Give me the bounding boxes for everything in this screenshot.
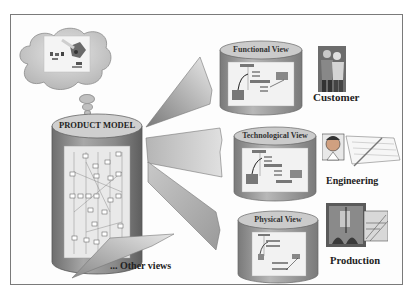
technological-view-cylinder: Technological View <box>232 126 318 204</box>
customer-label: Customer <box>313 91 359 103</box>
physical-view-title: Physical View <box>236 215 320 224</box>
other-views-beam <box>70 232 180 280</box>
thought-cloud <box>14 24 114 94</box>
production-image <box>326 203 388 247</box>
technological-view-title: Technological View <box>232 131 318 140</box>
functional-view-cylinder: Functional View <box>218 40 304 118</box>
other-views-label: ... Other views <box>110 260 171 271</box>
production-label: Production <box>330 255 380 266</box>
engineering-label: Engineering <box>326 175 378 186</box>
customer-image <box>318 46 346 92</box>
engineering-image <box>322 130 402 170</box>
physical-view-cylinder: Physical View <box>236 210 320 286</box>
functional-view-title: Functional View <box>218 45 304 54</box>
product-model-title: PRODUCT MODEL <box>50 120 144 130</box>
